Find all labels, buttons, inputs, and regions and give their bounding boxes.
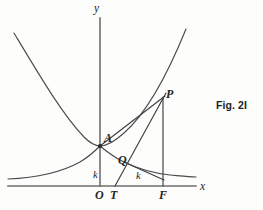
- point-label-P: P: [166, 88, 173, 100]
- vertex-point-A-dot: [98, 144, 102, 148]
- segment-label-k-horizontal: k: [136, 171, 141, 182]
- decay-curve: [8, 146, 196, 179]
- point-label-F: F: [159, 189, 167, 201]
- figure-container: y x A Q P O T F k k Fig. 2I: [0, 0, 263, 210]
- figure-caption: Fig. 2I: [216, 100, 247, 111]
- point-label-Q: Q: [118, 154, 127, 166]
- segment-label-k-vertical: k: [93, 170, 98, 181]
- point-label-T: T: [110, 189, 117, 201]
- point-label-O: O: [95, 189, 104, 201]
- segment-Q-to-F: [124, 162, 164, 180]
- point-label-A: A: [104, 132, 112, 144]
- x-axis-label: x: [200, 181, 205, 193]
- y-axis-label: y: [94, 3, 99, 15]
